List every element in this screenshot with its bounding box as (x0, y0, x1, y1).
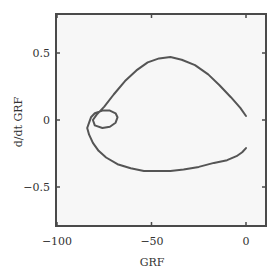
y-axis-label: d/dt GRF (12, 96, 25, 147)
x-tick-label-neg100: −100 (42, 235, 72, 248)
y-tick-label-0.5: 0.5 (33, 47, 51, 60)
x-tick-label-neg50: −50 (140, 235, 163, 248)
y-tick-label-0: 0 (43, 114, 50, 127)
plot-area (56, 14, 266, 226)
x-tick-label-0: 0 (243, 235, 250, 248)
y-tick-label-neg0.5: −0.5 (23, 181, 50, 194)
x-axis-label: GRF (140, 256, 165, 269)
phase-plot: −100 −50 0 0.5 0 −0.5 GRF d/dt GRF (0, 0, 280, 280)
